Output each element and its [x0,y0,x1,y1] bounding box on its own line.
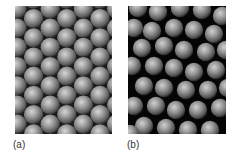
sphere [90,9,109,28]
sphere [24,105,43,124]
sphere [179,121,197,134]
sphere [57,124,76,134]
sphere-array-a [15,6,112,134]
sphere [177,81,195,99]
sphere [90,124,109,134]
sphere [24,6,43,9]
sphere [24,86,43,105]
sphere [165,19,183,37]
sphere [207,61,225,79]
sphere [74,38,93,57]
sphere [205,25,223,43]
sphere [24,9,43,28]
sphere [57,86,76,105]
sphere [157,119,175,134]
sphere [24,67,43,86]
panel-b-label: (b) [127,139,139,150]
panel-a-label: (a) [13,139,25,150]
sphere [219,79,226,97]
sphere [57,6,76,9]
sphere [24,47,43,66]
sphere [171,6,189,17]
sphere [74,95,93,114]
sphere [57,9,76,28]
sphere [90,86,109,105]
sphere [57,67,76,86]
sphere [197,43,215,61]
sphere [41,38,60,57]
sphere [211,99,226,117]
sphere [41,6,60,19]
sphere [24,28,43,47]
sphere [217,41,226,59]
sphere [129,6,147,17]
sphere [74,6,93,19]
sphere [155,79,173,97]
sphere [90,47,109,66]
panel-b-random-packed-spheres [128,6,226,134]
sphere [193,6,211,19]
sphere [90,6,109,9]
sphere [199,81,217,99]
sphere [135,77,153,95]
sphere [165,59,183,77]
sphere [133,39,151,57]
sphere [147,97,165,115]
sphere [24,124,43,134]
sphere [185,21,203,39]
sphere [41,76,60,95]
sphere [155,37,173,55]
sphere [90,28,109,47]
sphere [74,76,93,95]
sphere [128,19,143,37]
panel-a-close-packed-spheres [15,6,112,134]
sphere [74,19,93,38]
sphere [57,28,76,47]
sphere [90,105,109,124]
sphere [149,6,167,21]
sphere [74,57,93,76]
sphere [128,97,143,115]
sphere-array-b [128,6,226,134]
sphere [167,101,185,119]
sphere [213,7,226,25]
sphere [41,115,60,134]
sphere [41,95,60,114]
sphere [201,121,219,134]
sphere [189,101,207,119]
sphere [57,47,76,66]
sphere [145,57,163,75]
sphere [175,41,193,59]
sphere [185,63,203,81]
sphere [74,115,93,134]
sphere [143,22,161,40]
sphere [57,105,76,124]
sphere [128,57,141,75]
sphere [90,67,109,86]
sphere [41,19,60,38]
sphere [41,57,60,76]
